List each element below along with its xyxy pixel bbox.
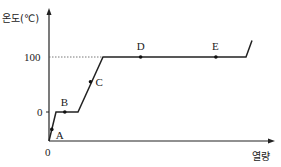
marker-C [89,80,93,84]
marker-label-E: E [212,40,219,52]
x-axis-label: 열량 [252,151,270,162]
y-tick-100: 100 [24,51,41,63]
marker-D [139,55,143,59]
marker-B [63,110,67,114]
heating-curve-chart: 온도(℃) 열량 100 0 0 ABCDE [0,0,281,167]
marker-label-C: C [96,76,103,88]
x-axis-arrow-icon [268,139,275,144]
series-line-heating-curve [49,41,252,142]
marker-label-B: B [61,96,68,108]
y-axis-arrow-icon [47,8,52,15]
marker-E [214,55,218,59]
marker-label-D: D [137,40,145,52]
marker-label-A: A [56,129,64,141]
marker-A [50,128,54,132]
y-tick-0: 0 [37,106,43,118]
y-axis-label: 온도(℃) [2,13,39,24]
x-tick-0: 0 [45,146,51,158]
